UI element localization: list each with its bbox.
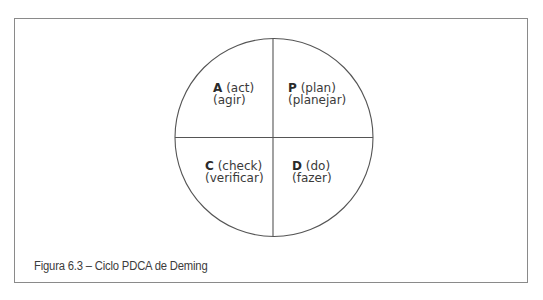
- quadrant-check-portuguese: (verificar): [205, 172, 264, 184]
- figure-caption: Figura 6.3 – Ciclo PDCA de Deming: [34, 259, 208, 273]
- quadrant-plan: P (plan) (planejar): [288, 82, 346, 106]
- pdca-cycle-diagram: [0, 0, 543, 300]
- quadrant-do: D (do) (fazer): [292, 160, 332, 184]
- quadrant-do-portuguese: (fazer): [292, 172, 332, 184]
- quadrant-plan-portuguese: (planejar): [288, 94, 346, 106]
- quadrant-check: C (check) (verificar): [205, 160, 264, 184]
- quadrant-act-portuguese: (agir): [213, 94, 254, 106]
- quadrant-act: A (act) (agir): [213, 82, 254, 106]
